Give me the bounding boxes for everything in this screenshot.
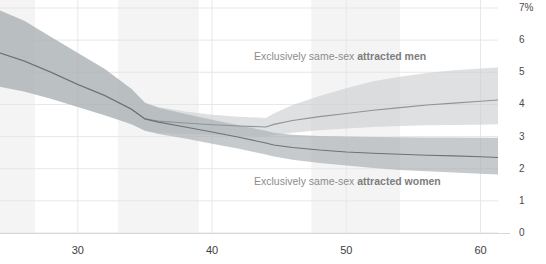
series-label-women-bold: attracted women (357, 175, 440, 187)
chart-plot-area (0, 0, 546, 264)
series-label-men-bold: attracted men (357, 50, 426, 62)
x-axis-tick-label: 40 (192, 245, 232, 256)
y-axis-tick-label: 0 (519, 228, 525, 238)
y-axis-tick-label: 4 (519, 99, 525, 109)
x-axis-tick-label: 30 (58, 245, 98, 256)
series-label-women: Exclusively same-sex attracted women (254, 175, 441, 187)
series-label-men: Exclusively same-sex attracted men (254, 50, 426, 62)
x-axis-tick-label: 60 (461, 245, 501, 256)
y-axis-tick-label: 5 (519, 67, 525, 77)
series-label-women-plain: Exclusively same-sex (254, 175, 357, 187)
y-axis-tick-label: 6 (519, 35, 525, 45)
y-axis-tick-label: 7% (519, 3, 533, 13)
y-axis-tick-label: 3 (519, 132, 525, 142)
x-axis-tick-label: 50 (326, 245, 366, 256)
series-label-men-plain: Exclusively same-sex (254, 50, 357, 62)
y-axis-tick-label: 2 (519, 164, 525, 174)
y-axis-tick-label: 1 (519, 196, 525, 206)
chart-container: 7%6543210 30405060 Exclusively same-sex … (0, 0, 546, 264)
confidence-bands (0, 11, 498, 175)
